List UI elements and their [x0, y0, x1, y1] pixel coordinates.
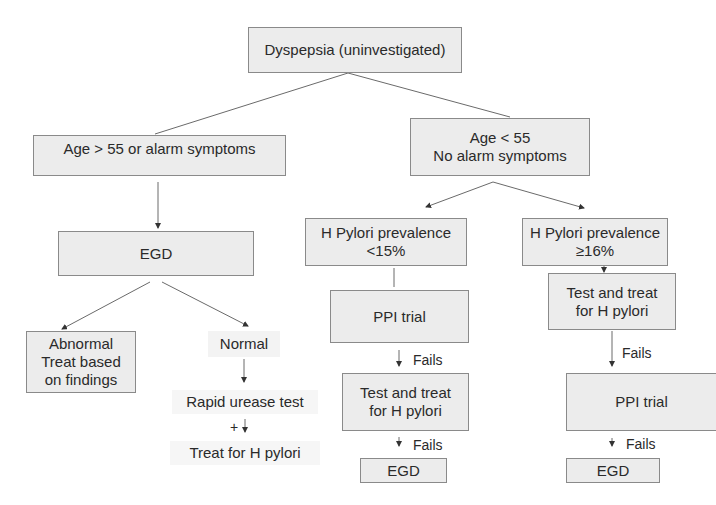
node-hp-prevalence-low: H Pylori prevalence <15%: [305, 218, 467, 266]
node-text: EGD: [597, 462, 630, 480]
edge-label-fails: Fails: [626, 436, 656, 452]
node-dyspepsia: Dyspepsia (uninvestigated): [248, 27, 462, 73]
node-test-treat-right: Test and treat for H pylori: [548, 273, 676, 330]
node-text: H Pylori prevalence ≥16%: [530, 224, 660, 260]
node-egd-left: EGD: [58, 231, 254, 276]
node-abnormal: Abnormal Treat based on findings: [26, 331, 136, 393]
node-ppi-trial-left: PPI trial: [330, 290, 469, 343]
node-egd-low-prevalence: EGD: [360, 458, 447, 483]
node-text: Rapid urease test: [186, 393, 304, 411]
node-text: Test and treat for H pylori: [567, 284, 658, 320]
node-text: PPI trial: [373, 308, 426, 326]
node-text: Abnormal Treat based on findings: [41, 335, 121, 389]
edge-label-fails: Fails: [622, 345, 652, 361]
node-normal: Normal: [208, 331, 280, 357]
node-age-under-55: Age < 55 No alarm symptoms: [410, 118, 590, 176]
node-text: EGD: [387, 462, 420, 480]
node-rapid-urease-test: Rapid urease test: [172, 390, 318, 414]
node-text: Dyspepsia (uninvestigated): [265, 41, 446, 59]
node-hp-prevalence-high: H Pylori prevalence ≥16%: [522, 218, 668, 266]
node-test-treat-left: Test and treat for H pylori: [342, 373, 469, 431]
node-text: Test and treat for H pylori: [360, 384, 451, 420]
node-text: Age < 55 No alarm symptoms: [433, 129, 566, 165]
node-text: H Pylori prevalence <15%: [321, 224, 451, 260]
node-age-over-55: Age > 55 or alarm symptoms: [33, 135, 286, 176]
edge-label-positive: +: [230, 419, 238, 435]
node-egd-high-prevalence: EGD: [566, 458, 660, 483]
node-treat-h-pylori: Treat for H pylori: [170, 441, 320, 465]
node-text: EGD: [140, 245, 173, 263]
node-text: Age > 55 or alarm symptoms: [63, 140, 255, 158]
edge-label-fails: Fails: [413, 437, 443, 453]
node-text: Treat for H pylori: [189, 444, 300, 462]
edge-label-fails: Fails: [413, 352, 443, 368]
node-ppi-trial-right: PPI trial: [566, 373, 716, 431]
node-text: PPI trial: [615, 393, 668, 411]
node-text: Normal: [220, 335, 268, 353]
